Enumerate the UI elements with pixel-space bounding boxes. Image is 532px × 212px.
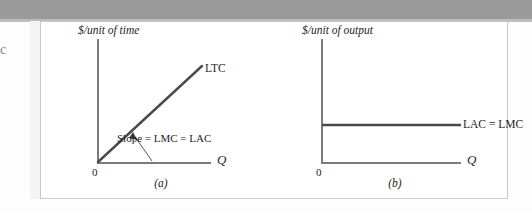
- panel-a-plot-overlay: [41, 22, 281, 200]
- panel-a: $/unit of time Q 0 LTC Slope = LMC = LAC…: [41, 22, 281, 200]
- cropped-edge-text: c: [0, 36, 11, 62]
- ltc-curve-line: [98, 66, 202, 162]
- lac-lmc-label: LAC = LMC: [463, 118, 523, 130]
- panel-b: $/unit of output Q 0 LAC = LMC (b): [281, 22, 509, 200]
- frame-left-strip: [30, 21, 40, 199]
- panel-b-plot-overlay: [281, 22, 509, 200]
- panel-b-caption: (b): [281, 177, 509, 189]
- figure-frame: $/unit of time Q 0 LTC Slope = LMC = LAC…: [40, 21, 508, 199]
- top-gray-band: [0, 0, 532, 21]
- figure-screenshot: c $/unit of time Q 0 LTC Slope = LMC = L…: [0, 0, 532, 212]
- slope-annotation-label: Slope = LMC = LAC: [117, 132, 211, 144]
- panel-a-caption: (a): [41, 177, 281, 189]
- ltc-label: LTC: [205, 62, 226, 74]
